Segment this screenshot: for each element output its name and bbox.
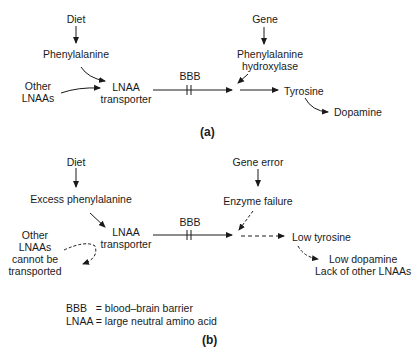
- node-other-lnaas-line2: LNAAs: [18, 92, 58, 104]
- arrow-enzyme-failure-conversion-dashed: [239, 211, 253, 230]
- node-other-line2: LNAAs: [10, 241, 60, 253]
- arrow-enzyme-conversion: [238, 74, 248, 83]
- node-bbb-b: BBB: [176, 216, 204, 228]
- node-other-lnaas-line1: Other: [18, 80, 58, 92]
- legend-lnaa: LNAA = large neutral amino acid: [66, 315, 217, 328]
- node-gene-error: Gene error: [228, 156, 288, 168]
- legend-bbb: BBB = blood–brain barrier: [66, 302, 193, 315]
- node-low-dopamine: Low dopamine: [329, 253, 397, 265]
- arrow-transporter-other-lnaas-dashed: [64, 244, 96, 264]
- arrow-excess-phenylalanine-transporter: [90, 213, 105, 227]
- panel-label-b: (b): [202, 333, 217, 347]
- node-tyrosine: Tyrosine: [284, 85, 324, 97]
- node-diet-b: Diet: [58, 156, 94, 168]
- node-dopamine: Dopamine: [334, 106, 382, 118]
- arrow-phenylalanine-transporter: [81, 67, 105, 81]
- node-enzyme-failure: Enzyme failure: [220, 195, 296, 207]
- arrow-tyrosine-dopamine: [305, 98, 328, 112]
- node-phenylalanine-a: Phenylalanine: [36, 48, 116, 60]
- node-enzyme-line2: hydroxylase: [230, 60, 310, 72]
- node-diet-a: Diet: [58, 13, 94, 25]
- node-enzyme-line1: Phenylalanine: [230, 48, 310, 60]
- node-bbb-a: BBB: [176, 70, 204, 82]
- node-lack-lnaas: Lack of other LNAAs: [315, 265, 411, 277]
- node-lnaa-transporter-b-line2: transporter: [98, 238, 154, 250]
- node-low-tyrosine: Low tyrosine: [292, 231, 351, 243]
- node-other-line3: cannot be: [10, 253, 60, 265]
- node-gene: Gene: [248, 13, 282, 25]
- panel-label-a: (a): [200, 125, 215, 139]
- node-lnaa-transporter-b-line1: LNAA: [98, 226, 154, 238]
- node-lnaa-transporter-line2: transporter: [98, 93, 154, 105]
- node-other-line4: transported: [6, 265, 64, 277]
- node-excess-phenylalanine: Excess phenylalanine: [26, 193, 136, 205]
- node-lnaa-transporter-line1: LNAA: [98, 81, 154, 93]
- node-other-line1: Other: [10, 229, 60, 241]
- arrow-other-lnaas-transporter: [61, 88, 100, 93]
- arrow-low-tyrosine-low-dopamine-dashed: [298, 246, 318, 259]
